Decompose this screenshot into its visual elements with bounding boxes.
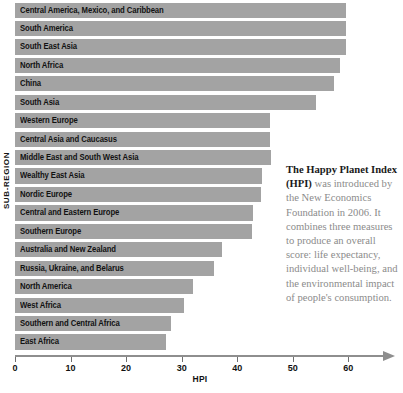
x-axis-tick bbox=[237, 357, 238, 362]
bar-category-label: West Africa bbox=[20, 298, 61, 313]
x-axis-tick bbox=[71, 357, 72, 362]
bar-category-label: Middle East and South West Asia bbox=[20, 150, 138, 165]
bar-category-label: North America bbox=[20, 279, 72, 294]
bar bbox=[15, 95, 316, 110]
hpi-description-body: was introduced by the New Economics Foun… bbox=[286, 178, 398, 303]
bar-row: Western Europe bbox=[15, 113, 365, 131]
x-axis-title: HPI bbox=[15, 374, 385, 384]
bar-row: North Africa bbox=[15, 57, 365, 75]
x-axis-tick bbox=[348, 357, 349, 362]
x-axis-tick bbox=[126, 357, 127, 362]
x-axis-tick-label: 0 bbox=[0, 363, 35, 373]
bar-category-label: Southern Europe bbox=[20, 224, 81, 239]
bar-category-label: South America bbox=[20, 21, 73, 36]
bar bbox=[15, 58, 340, 73]
bar-category-label: Central Asia and Caucasus bbox=[20, 132, 117, 147]
y-axis-title: SUB-REGION bbox=[0, 120, 14, 240]
x-axis-tick bbox=[15, 357, 16, 362]
bar-row: East Africa bbox=[15, 334, 365, 352]
bar-row: Southern and Central Africa bbox=[15, 315, 365, 333]
bar-category-label: South East Asia bbox=[20, 39, 77, 54]
bar-category-label: Southern and Central Africa bbox=[20, 316, 120, 331]
x-axis-tick-label: 10 bbox=[51, 363, 91, 373]
bar-row: China bbox=[15, 76, 365, 94]
bar-row: South America bbox=[15, 20, 365, 38]
x-axis-tick bbox=[182, 357, 183, 362]
bar bbox=[15, 76, 334, 91]
x-axis-tick-label: 50 bbox=[273, 363, 313, 373]
bar-category-label: East Africa bbox=[20, 334, 59, 349]
x-axis-tick-label: 40 bbox=[217, 363, 257, 373]
bar-category-label: Central America, Mexico, and Caribbean bbox=[20, 3, 164, 18]
bar-row: Central Asia and Caucasus bbox=[15, 131, 365, 149]
bar-row: South East Asia bbox=[15, 39, 365, 57]
bar-category-label: Nordic Europe bbox=[20, 187, 72, 202]
bar-category-label: Central and Eastern Europe bbox=[20, 205, 119, 220]
x-axis-tick-label: 20 bbox=[106, 363, 146, 373]
hpi-description-note: The Happy Planet Index (HPI) was introdu… bbox=[286, 163, 398, 305]
x-axis-tick-label: 30 bbox=[162, 363, 202, 373]
x-axis: 0102030405060 bbox=[15, 354, 403, 366]
bar-category-label: South Asia bbox=[20, 95, 59, 110]
x-axis-arrow-icon bbox=[383, 351, 395, 361]
bar-category-label: Wealthy East Asia bbox=[20, 168, 84, 183]
bar-row: Central America, Mexico, and Caribbean bbox=[15, 2, 365, 20]
bar-row: South Asia bbox=[15, 94, 365, 112]
bar-category-label: Australia and New Zealand bbox=[20, 242, 116, 257]
bar-category-label: North Africa bbox=[20, 58, 63, 73]
y-axis-title-label: SUB-REGION bbox=[3, 151, 12, 208]
bar-category-label: Russia, Ukraine, and Belarus bbox=[20, 261, 124, 276]
happy-planet-index-chart: SUB-REGION Central America, Mexico, and … bbox=[0, 0, 403, 393]
bar-category-label: China bbox=[20, 76, 41, 91]
x-axis-tick-label: 60 bbox=[328, 363, 368, 373]
x-axis-tick bbox=[293, 357, 294, 362]
bar-category-label: Western Europe bbox=[20, 113, 78, 128]
